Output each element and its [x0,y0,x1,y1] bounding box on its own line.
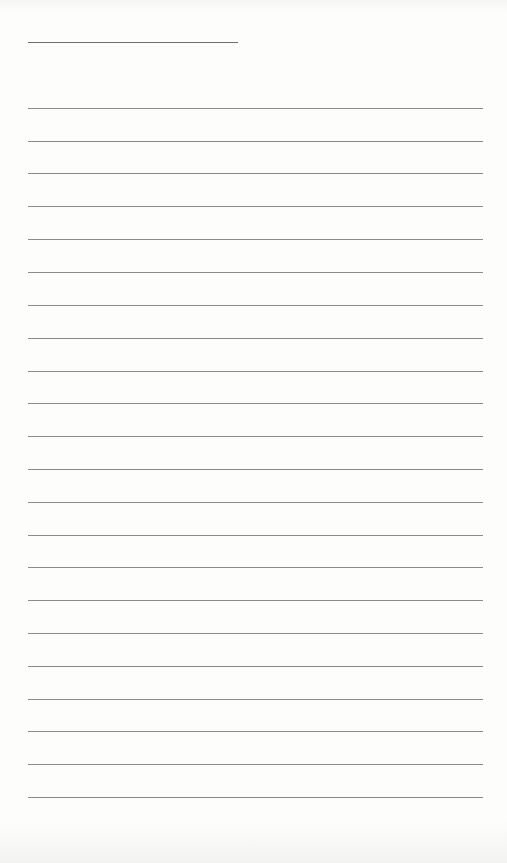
ruled-line [28,108,483,109]
ruled-line [28,371,483,372]
ruled-line [28,206,483,207]
ruled-line [28,436,483,437]
ruled-line [28,600,483,601]
ruled-line [28,633,483,634]
ruled-line [28,797,483,798]
ruled-line [28,239,483,240]
ruled-line [28,338,483,339]
ruled-line [28,535,483,536]
ruled-lines [0,0,507,863]
ruled-line [28,666,483,667]
ruled-line [28,469,483,470]
ruled-line [28,731,483,732]
ruled-line [28,764,483,765]
lined-paper-page [0,0,507,863]
ruled-line [28,272,483,273]
ruled-line [28,567,483,568]
ruled-line [28,141,483,142]
ruled-line [28,699,483,700]
ruled-line [28,502,483,503]
ruled-line [28,173,483,174]
ruled-line [28,305,483,306]
ruled-line [28,403,483,404]
